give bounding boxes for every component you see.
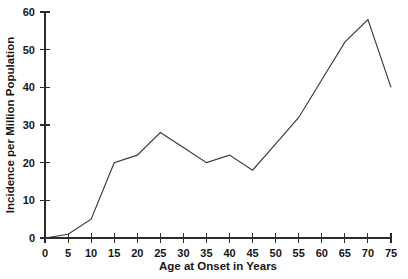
y-axis-tick-labels: 0102030405060 [23, 6, 35, 244]
y-axis-tick-label: 50 [23, 44, 35, 56]
x-axis-tick-labels: 051015202530354045505560657075 [42, 247, 397, 259]
x-axis-tick-label: 50 [270, 247, 282, 259]
x-axis-tick-label: 30 [177, 247, 189, 259]
x-axis-tick-label: 15 [108, 247, 120, 259]
x-axis-tick-label: 65 [339, 247, 351, 259]
y-axis-title: Incidence per Million Population [4, 37, 16, 213]
y-axis-tick-label: 30 [23, 119, 35, 131]
y-axis-tick-label: 10 [23, 194, 35, 206]
y-axis-tick-label: 0 [29, 232, 35, 244]
y-axis-tick-label: 60 [23, 6, 35, 18]
y-axis-tick-label: 40 [23, 81, 35, 93]
x-axis-tick-label: 0 [42, 247, 48, 259]
y-axis-tick-label: 20 [23, 157, 35, 169]
x-axis-tick-label: 5 [65, 247, 71, 259]
x-axis-tick-label: 40 [223, 247, 235, 259]
x-axis-tick-label: 55 [293, 247, 305, 259]
x-axis-tick-label: 10 [85, 247, 97, 259]
series-line-incidence [45, 20, 391, 238]
x-axis-tick-label: 45 [246, 247, 258, 259]
chart-container: 0102030405060 05101520253035404550556065… [0, 0, 408, 279]
data-series-incidence [45, 20, 391, 238]
x-axis-tick-label: 60 [316, 247, 328, 259]
line-chart: 0102030405060 05101520253035404550556065… [0, 0, 408, 279]
x-axis-tick-label: 70 [362, 247, 374, 259]
x-axis-tick-label: 75 [385, 247, 397, 259]
x-axis-title: Age at Onset in Years [159, 260, 277, 272]
x-axis-tick-label: 20 [131, 247, 143, 259]
x-axis-tick-label: 25 [154, 247, 166, 259]
x-axis-tick-label: 35 [200, 247, 212, 259]
